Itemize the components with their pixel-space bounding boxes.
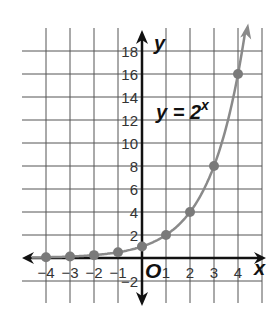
- y-tick-label: 6: [130, 181, 138, 198]
- equation-base: y = 2: [155, 101, 201, 123]
- data-point: [113, 247, 123, 257]
- x-axis-label: x: [253, 257, 266, 279]
- y-tick-label: 14: [121, 89, 138, 106]
- exponential-graph: −4−3−2−1123418161412108642−2 y x O y = 2…: [0, 0, 276, 318]
- y-tick-label: 10: [121, 135, 138, 152]
- data-point: [65, 252, 75, 262]
- origin-label: O: [145, 259, 161, 282]
- axes: [22, 30, 266, 306]
- y-tick-label: 8: [130, 158, 138, 175]
- y-tick-label: 12: [121, 112, 138, 129]
- x-tick-label: 3: [210, 264, 218, 281]
- data-point: [137, 242, 147, 252]
- data-point: [41, 252, 51, 262]
- y-tick-label: 16: [121, 66, 138, 83]
- x-tick-label: −4: [37, 264, 54, 281]
- curve-y-equals-2-to-x: [32, 32, 246, 258]
- data-point: [89, 250, 99, 260]
- x-tick-label: 2: [186, 264, 194, 281]
- y-tick-label: 2: [130, 227, 138, 244]
- x-tick-label: 1: [162, 264, 170, 281]
- x-tick-label: −2: [85, 264, 102, 281]
- equation-exponent: x: [200, 97, 210, 113]
- y-tick-label: −2: [121, 273, 138, 290]
- equation-label: y = 2x: [155, 97, 210, 123]
- x-tick-label: 4: [234, 264, 242, 281]
- data-point: [185, 207, 195, 217]
- y-axis-label: y: [153, 32, 166, 54]
- data-point: [233, 69, 243, 79]
- y-tick-label: 18: [121, 43, 138, 60]
- data-point: [161, 230, 171, 240]
- curve-arrow-icon: [240, 23, 251, 39]
- y-tick-label: 4: [130, 204, 138, 221]
- x-tick-label: −3: [61, 264, 78, 281]
- data-point: [209, 161, 219, 171]
